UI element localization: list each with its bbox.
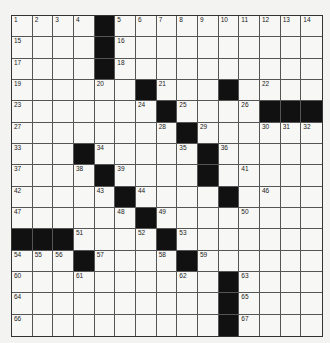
grid-cell[interactable] xyxy=(115,315,136,336)
grid-cell[interactable] xyxy=(74,101,95,122)
grid-cell[interactable] xyxy=(260,208,281,229)
grid-cell[interactable] xyxy=(219,229,240,250)
grid-cell[interactable]: 32 xyxy=(301,123,322,144)
grid-cell[interactable] xyxy=(115,144,136,165)
grid-cell[interactable]: 58 xyxy=(157,251,178,272)
grid-cell[interactable] xyxy=(74,37,95,58)
grid-cell[interactable]: 38 xyxy=(74,165,95,186)
grid-cell[interactable] xyxy=(281,37,302,58)
grid-cell[interactable]: 27 xyxy=(12,123,33,144)
grid-cell[interactable] xyxy=(260,272,281,293)
grid-cell[interactable] xyxy=(301,59,322,80)
grid-cell[interactable] xyxy=(53,59,74,80)
grid-cell[interactable] xyxy=(198,80,219,101)
grid-cell[interactable] xyxy=(33,293,54,314)
grid-cell[interactable] xyxy=(219,208,240,229)
grid-cell[interactable] xyxy=(301,229,322,250)
grid-cell[interactable] xyxy=(281,272,302,293)
grid-cell[interactable]: 55 xyxy=(33,251,54,272)
grid-cell[interactable] xyxy=(157,37,178,58)
grid-cell[interactable]: 51 xyxy=(74,229,95,250)
grid-cell[interactable] xyxy=(33,208,54,229)
grid-cell[interactable] xyxy=(74,208,95,229)
grid-cell[interactable]: 36 xyxy=(219,144,240,165)
grid-cell[interactable] xyxy=(281,229,302,250)
grid-cell[interactable] xyxy=(33,80,54,101)
grid-cell[interactable]: 47 xyxy=(12,208,33,229)
grid-cell[interactable] xyxy=(95,293,116,314)
grid-cell[interactable]: 33 xyxy=(12,144,33,165)
grid-cell[interactable] xyxy=(53,187,74,208)
grid-cell[interactable]: 2 xyxy=(33,16,54,37)
grid-cell[interactable]: 42 xyxy=(12,187,33,208)
grid-cell[interactable] xyxy=(53,101,74,122)
grid-cell[interactable] xyxy=(115,229,136,250)
grid-cell[interactable]: 30 xyxy=(260,123,281,144)
grid-cell[interactable] xyxy=(281,208,302,229)
grid-cell[interactable] xyxy=(219,101,240,122)
grid-cell[interactable] xyxy=(301,37,322,58)
grid-cell[interactable] xyxy=(198,272,219,293)
grid-cell[interactable]: 37 xyxy=(12,165,33,186)
grid-cell[interactable] xyxy=(177,37,198,58)
grid-cell[interactable] xyxy=(198,208,219,229)
grid-cell[interactable] xyxy=(281,80,302,101)
grid-cell[interactable]: 61 xyxy=(74,272,95,293)
grid-cell[interactable] xyxy=(281,315,302,336)
grid-cell[interactable]: 3 xyxy=(53,16,74,37)
grid-cell[interactable] xyxy=(260,37,281,58)
grid-cell[interactable]: 21 xyxy=(157,80,178,101)
grid-cell[interactable] xyxy=(136,144,157,165)
grid-cell[interactable] xyxy=(53,37,74,58)
grid-cell[interactable] xyxy=(260,165,281,186)
grid-cell[interactable]: 24 xyxy=(136,101,157,122)
grid-cell[interactable]: 6 xyxy=(136,16,157,37)
grid-cell[interactable]: 1 xyxy=(12,16,33,37)
grid-cell[interactable] xyxy=(115,293,136,314)
grid-cell[interactable] xyxy=(136,123,157,144)
grid-cell[interactable]: 18 xyxy=(115,59,136,80)
grid-cell[interactable]: 10 xyxy=(219,16,240,37)
grid-cell[interactable] xyxy=(95,101,116,122)
grid-cell[interactable]: 25 xyxy=(177,101,198,122)
grid-cell[interactable]: 49 xyxy=(157,208,178,229)
grid-cell[interactable]: 11 xyxy=(239,16,260,37)
grid-cell[interactable] xyxy=(198,229,219,250)
grid-cell[interactable] xyxy=(157,144,178,165)
grid-cell[interactable] xyxy=(198,315,219,336)
grid-cell[interactable] xyxy=(198,59,219,80)
grid-cell[interactable] xyxy=(115,251,136,272)
grid-cell[interactable] xyxy=(74,123,95,144)
grid-cell[interactable]: 62 xyxy=(177,272,198,293)
grid-cell[interactable]: 23 xyxy=(12,101,33,122)
grid-cell[interactable] xyxy=(74,315,95,336)
grid-cell[interactable]: 22 xyxy=(260,80,281,101)
grid-cell[interactable] xyxy=(115,80,136,101)
grid-cell[interactable] xyxy=(281,165,302,186)
grid-cell[interactable] xyxy=(33,272,54,293)
grid-cell[interactable] xyxy=(177,59,198,80)
grid-cell[interactable] xyxy=(136,293,157,314)
grid-cell[interactable]: 7 xyxy=(157,16,178,37)
grid-cell[interactable] xyxy=(115,101,136,122)
grid-cell[interactable] xyxy=(177,187,198,208)
grid-cell[interactable] xyxy=(177,80,198,101)
grid-cell[interactable] xyxy=(157,165,178,186)
grid-cell[interactable] xyxy=(136,272,157,293)
grid-cell[interactable] xyxy=(53,80,74,101)
grid-cell[interactable] xyxy=(260,315,281,336)
grid-cell[interactable]: 8 xyxy=(177,16,198,37)
grid-cell[interactable] xyxy=(260,293,281,314)
grid-cell[interactable]: 66 xyxy=(12,315,33,336)
grid-cell[interactable] xyxy=(239,144,260,165)
grid-cell[interactable] xyxy=(136,37,157,58)
grid-cell[interactable] xyxy=(301,315,322,336)
grid-cell[interactable]: 60 xyxy=(12,272,33,293)
grid-cell[interactable] xyxy=(53,315,74,336)
grid-cell[interactable] xyxy=(301,293,322,314)
grid-cell[interactable] xyxy=(33,144,54,165)
grid-cell[interactable] xyxy=(33,37,54,58)
grid-cell[interactable] xyxy=(239,80,260,101)
grid-cell[interactable] xyxy=(74,187,95,208)
grid-cell[interactable] xyxy=(239,123,260,144)
